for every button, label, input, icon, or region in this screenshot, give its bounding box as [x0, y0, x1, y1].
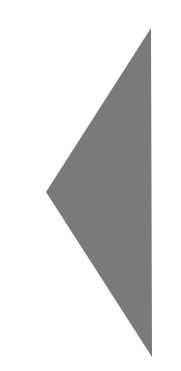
triangle-shape: [46, 28, 152, 357]
left-pointing-triangle-icon: [0, 0, 181, 371]
